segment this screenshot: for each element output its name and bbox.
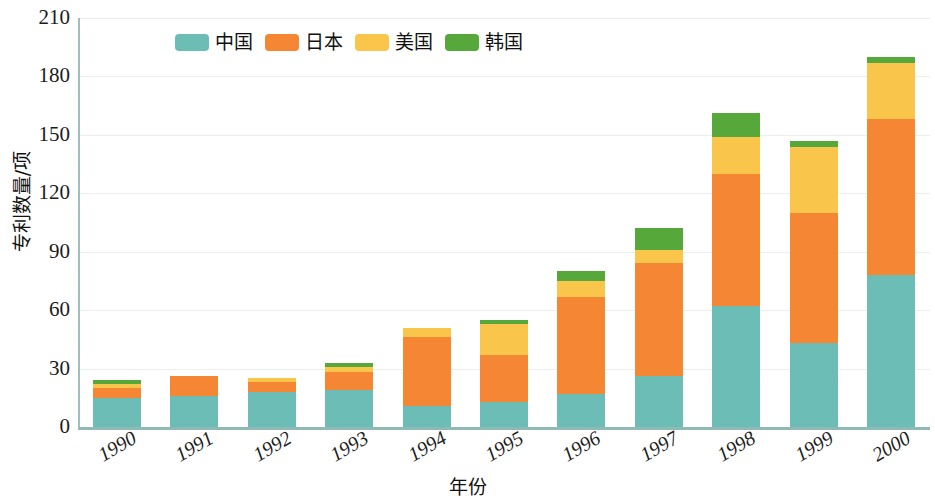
bar-group[interactable] <box>480 320 528 427</box>
bar-group[interactable] <box>325 363 373 427</box>
bar-segment[interactable] <box>480 355 528 402</box>
x-axis-tick-wrapper: 2000 <box>867 434 915 480</box>
x-axis-tick-wrapper: 1996 <box>557 434 605 480</box>
bar-segment[interactable] <box>867 119 915 275</box>
bar-segment[interactable] <box>635 250 683 264</box>
bar-segment[interactable] <box>635 263 683 376</box>
bar-segment[interactable] <box>557 271 605 281</box>
bar-segment[interactable] <box>557 281 605 297</box>
bar-segment[interactable] <box>170 376 218 395</box>
y-axis-tick-label: 0 <box>8 416 70 437</box>
bar-segment[interactable] <box>480 324 528 355</box>
bar-group[interactable] <box>790 141 838 427</box>
bar-group[interactable] <box>403 328 451 427</box>
bar-segment[interactable] <box>867 275 915 427</box>
x-axis-tick-wrapper: 1999 <box>790 434 838 480</box>
y-axis-title: 专利数量/项 <box>13 122 32 282</box>
y-axis-tick-label: 210 <box>8 7 70 28</box>
bar-segment[interactable] <box>635 376 683 427</box>
bar-segment[interactable] <box>248 392 296 427</box>
bar-segment[interactable] <box>557 394 605 427</box>
bar-segment[interactable] <box>712 306 760 427</box>
bar-segment[interactable] <box>712 137 760 174</box>
patent-stacked-bar-chart: 2101801501209060300 专利数量/项 中国日本美国韩国 1990… <box>0 0 935 504</box>
bar-segment[interactable] <box>557 297 605 394</box>
x-axis-tick-wrapper: 1995 <box>480 434 528 480</box>
x-axis-tick-labels: 1990199119921993199419951996199719981999… <box>78 434 930 480</box>
bar-segment[interactable] <box>248 382 296 392</box>
plot-area <box>78 18 930 430</box>
bar-segment[interactable] <box>712 113 760 136</box>
y-axis-tick-label: 60 <box>8 299 70 320</box>
x-axis-tick-wrapper: 1994 <box>403 434 451 480</box>
y-axis-tick-label: 30 <box>8 358 70 379</box>
bar-group[interactable] <box>867 57 915 427</box>
bar-segment[interactable] <box>325 372 373 390</box>
bar-group[interactable] <box>712 113 760 427</box>
x-axis-tick-wrapper: 1997 <box>635 434 683 480</box>
x-axis-tick-wrapper: 1998 <box>712 434 760 480</box>
bar-group[interactable] <box>93 380 141 427</box>
x-axis-tick-wrapper: 1991 <box>170 434 218 480</box>
x-axis-tick-wrapper: 1990 <box>93 434 141 480</box>
bar-segment[interactable] <box>790 343 838 427</box>
bar-segment[interactable] <box>403 328 451 338</box>
bar-segment[interactable] <box>712 174 760 306</box>
x-axis-tick-wrapper: 1993 <box>325 434 373 480</box>
bar-segment[interactable] <box>325 390 373 427</box>
bar-segment[interactable] <box>867 63 915 119</box>
bar-group[interactable] <box>170 376 218 427</box>
bar-group[interactable] <box>635 228 683 427</box>
bar-segment[interactable] <box>403 337 451 405</box>
x-axis-tick-wrapper: 1992 <box>248 434 296 480</box>
bar-series-container <box>78 18 930 427</box>
bar-segment[interactable] <box>790 147 838 213</box>
bar-segment[interactable] <box>93 398 141 427</box>
x-axis-title: 年份 <box>0 478 935 497</box>
bar-segment[interactable] <box>93 388 141 398</box>
bar-segment[interactable] <box>635 228 683 249</box>
y-axis-tick-label: 180 <box>8 65 70 86</box>
bar-group[interactable] <box>557 271 605 427</box>
bar-segment[interactable] <box>170 396 218 427</box>
bar-group[interactable] <box>248 378 296 427</box>
bar-segment[interactable] <box>790 213 838 343</box>
